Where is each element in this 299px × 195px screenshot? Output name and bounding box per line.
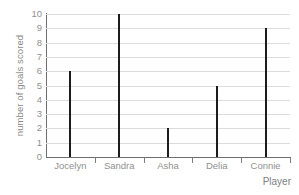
x-axis-category-label: Connie bbox=[241, 160, 290, 171]
y-axis-tick-label: 9 bbox=[22, 23, 42, 33]
y-axis-tick-label: 6 bbox=[22, 66, 42, 76]
gridline bbox=[46, 57, 290, 58]
x-axis-category-label: Asha bbox=[144, 160, 193, 171]
gridline bbox=[46, 14, 290, 15]
x-axis-category-label: Delia bbox=[192, 160, 241, 171]
y-axis-tick-label: 10 bbox=[22, 9, 42, 19]
plot-area bbox=[46, 14, 290, 157]
gridline bbox=[46, 86, 290, 87]
gridline bbox=[46, 114, 290, 115]
y-axis-tick-labels: 012345678910 bbox=[22, 0, 42, 195]
bar bbox=[216, 86, 218, 158]
x-axis-category-label: Jocelyn bbox=[46, 160, 95, 171]
x-axis-category-label: Sandra bbox=[95, 160, 144, 171]
y-axis-tick-label: 7 bbox=[22, 52, 42, 62]
x-axis-tick bbox=[290, 158, 291, 163]
gridline bbox=[46, 28, 290, 29]
y-axis-tick-label: 5 bbox=[22, 81, 42, 91]
bar bbox=[265, 28, 267, 157]
y-axis-tick-label: 0 bbox=[22, 152, 42, 162]
y-axis-tick-label: 4 bbox=[22, 95, 42, 105]
gridline bbox=[46, 71, 290, 72]
bar-chart: number of goals scored 012345678910 Joce… bbox=[0, 0, 299, 195]
y-axis-tick-label: 2 bbox=[22, 123, 42, 133]
bar bbox=[69, 71, 71, 157]
gridline bbox=[46, 100, 290, 101]
gridline bbox=[46, 43, 290, 44]
x-axis-title: Player bbox=[263, 176, 291, 187]
x-axis-line bbox=[46, 157, 291, 158]
y-axis-tick-label: 3 bbox=[22, 109, 42, 119]
bar bbox=[167, 128, 169, 157]
y-axis-tick-label: 1 bbox=[22, 138, 42, 148]
y-axis-tick-label: 8 bbox=[22, 38, 42, 48]
bar bbox=[118, 14, 120, 157]
